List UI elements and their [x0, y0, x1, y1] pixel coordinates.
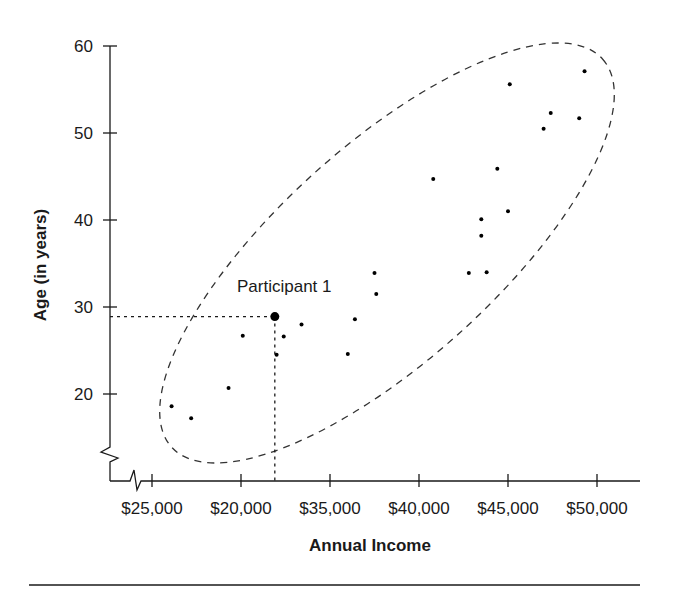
data-point [506, 209, 510, 213]
data-point [508, 82, 512, 86]
data-point [495, 167, 499, 171]
x-tick-label: $20,000 [210, 499, 271, 518]
data-point [374, 292, 378, 296]
data-point [583, 69, 587, 73]
y-axis: 2030405060 [74, 37, 118, 481]
x-tick-label: $40,000 [388, 499, 449, 518]
x-tick-label: $45,000 [477, 499, 538, 518]
x-axis-title: Annual Income [309, 536, 431, 555]
y-tick-label: 50 [74, 124, 93, 143]
x-tick-label: $35,000 [299, 499, 360, 518]
data-point [300, 322, 304, 326]
confidence-ellipse [99, 0, 675, 527]
data-point [467, 271, 471, 275]
y-tick-label: 20 [74, 385, 93, 404]
data-point [189, 416, 193, 420]
y-tick-label: 60 [74, 37, 93, 56]
data-point [485, 270, 489, 274]
data-point [275, 353, 279, 357]
data-point [227, 386, 231, 390]
data-point [282, 335, 286, 339]
scatter-chart: 2030405060 $25,000$20,000$35,000$40,000$… [0, 0, 676, 593]
data-point [431, 177, 435, 181]
y-tick-label: 40 [74, 211, 93, 230]
data-point [549, 111, 553, 115]
data-point [373, 271, 377, 275]
x-tick-label: $50,000 [566, 499, 627, 518]
data-point [577, 116, 581, 120]
y-axis-title: Age (in years) [31, 209, 50, 321]
data-point [170, 404, 174, 408]
x-axis: $25,000$20,000$35,000$40,000$45,000$50,0… [110, 470, 640, 518]
data-point [479, 234, 483, 238]
data-point [479, 217, 483, 221]
data-point [353, 317, 357, 321]
data-point [542, 127, 546, 131]
x-axis-line [110, 470, 640, 490]
data-point [346, 352, 350, 356]
x-tick-label: $25,000 [121, 499, 182, 518]
y-axis-line [101, 46, 118, 481]
participant-1-label: Participant 1 [237, 277, 332, 296]
participant-1-point [270, 312, 279, 321]
y-tick-label: 30 [74, 298, 93, 317]
dashed-ellipse [99, 0, 675, 527]
data-point [241, 334, 245, 338]
participant-guide-lines [110, 317, 275, 481]
